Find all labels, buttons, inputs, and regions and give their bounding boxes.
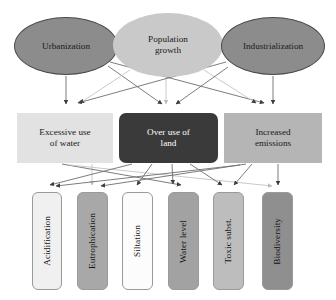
pressure-label-over-use-of-land: Over use of land <box>147 127 190 148</box>
driver-label-urbanization: Urbanization <box>42 41 90 52</box>
pressure-label-increased-emissions-line2: emissions <box>255 138 291 148</box>
edge-over-use-of-land-to-siltation <box>137 164 152 185</box>
impact-label-water-level: Water level <box>178 220 189 263</box>
edge-over-use-of-land-to-water-level <box>172 164 173 184</box>
impact-node-acidification[interactable]: Acidification <box>32 192 62 290</box>
edge-population-growth-to-excessive-use-of-water <box>80 70 130 103</box>
pressure-label-excessive-use-of-water-line1: Excessive use <box>39 127 90 137</box>
causal-flow-diagram: Urbanization Population growth Industria… <box>0 0 336 300</box>
impact-label-biodiversity: Biodiversity <box>272 218 283 265</box>
edge-population-growth-to-increased-emissions <box>204 70 256 103</box>
pressure-label-increased-emissions: Increased emissions <box>255 127 291 148</box>
edge-increased-emissions-to-toxic-subst <box>234 164 252 185</box>
pressure-label-excessive-use-of-water-line2: of water <box>50 138 80 148</box>
impact-node-siltation[interactable]: Siltation <box>122 192 153 290</box>
pressure-node-excessive-use-of-water[interactable]: Excessive use of water <box>17 113 113 163</box>
impact-label-eutrophication: Eutrophication <box>87 213 98 269</box>
driver-label-population-growth: Population growth <box>148 34 188 55</box>
driver-node-population-growth[interactable]: Population growth <box>113 13 223 77</box>
impact-node-eutrophication[interactable]: Eutrophication <box>77 192 108 290</box>
driver-node-urbanization[interactable]: Urbanization <box>14 17 118 75</box>
impact-label-acidification: Acidification <box>42 216 53 266</box>
driver-label-population-growth-line1: Population <box>148 34 188 44</box>
impact-node-biodiversity[interactable]: Biodiversity <box>262 192 293 290</box>
impact-node-water-level[interactable]: Water level <box>168 192 199 290</box>
driver-label-population-growth-line2: growth <box>155 45 181 55</box>
impact-node-toxic-subst[interactable]: Toxic subst. <box>213 192 244 290</box>
pressure-label-over-use-of-land-line1: Over use of <box>147 127 190 137</box>
driver-label-industrialization: Industrialization <box>243 41 303 52</box>
pressure-label-increased-emissions-line1: Increased <box>255 127 290 137</box>
edge-group-pressures-to-impacts <box>50 164 278 186</box>
pressure-label-over-use-of-land-line2: land <box>161 138 177 148</box>
pressure-label-excessive-use-of-water: Excessive use of water <box>39 127 90 148</box>
impact-label-toxic-subst: Toxic subst. <box>223 218 234 263</box>
impact-label-siltation: Siltation <box>132 225 143 257</box>
pressure-node-over-use-of-land[interactable]: Over use of land <box>119 113 218 163</box>
driver-node-industrialization[interactable]: Industrialization <box>221 17 325 75</box>
pressure-node-increased-emissions[interactable]: Increased emissions <box>224 113 322 163</box>
